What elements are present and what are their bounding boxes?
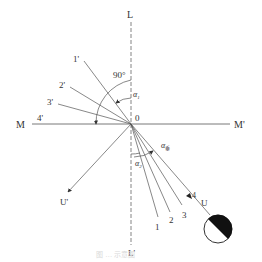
label-L: L	[127, 9, 133, 20]
label-U: U	[201, 198, 208, 208]
ray-3-prime	[58, 104, 131, 124]
label-M: M	[16, 119, 25, 130]
label-alpha2: α2	[135, 159, 142, 169]
label-90-degrees: 90°	[113, 70, 126, 80]
label-2-prime: 2'	[59, 80, 66, 90]
ray-U	[131, 124, 210, 215]
label-origin: 0	[135, 113, 140, 123]
figure-caption: 图 … 示意图	[96, 250, 135, 259]
ray-U-prime	[68, 124, 131, 192]
label-1: 1	[155, 222, 160, 232]
ray-1	[131, 124, 158, 217]
diagram-svg: L L' M M' 0 1' 2' 3' 4' 1 2 3 4 U U' 90°…	[0, 0, 262, 262]
label-4: 4	[192, 191, 196, 200]
label-alpha1: α1	[133, 90, 140, 100]
arc-alpha2	[131, 153, 140, 154]
label-3-prime: 3'	[47, 97, 54, 107]
label-M-prime: M'	[234, 119, 245, 130]
ray-2	[131, 124, 170, 212]
label-1-prime: 1'	[73, 54, 80, 64]
diagram-canvas: L L' M M' 0 1' 2' 3' 4' 1 2 3 4 U U' 90°…	[0, 0, 262, 262]
label-alpha-perp: α垂	[161, 141, 170, 151]
label-2: 2	[169, 215, 174, 225]
label-U-prime: U'	[60, 197, 68, 207]
ray-2-prime	[70, 87, 131, 124]
label-4-prime: 4'	[37, 113, 44, 123]
label-3: 3	[182, 210, 187, 220]
arc-alpha1	[116, 98, 131, 103]
